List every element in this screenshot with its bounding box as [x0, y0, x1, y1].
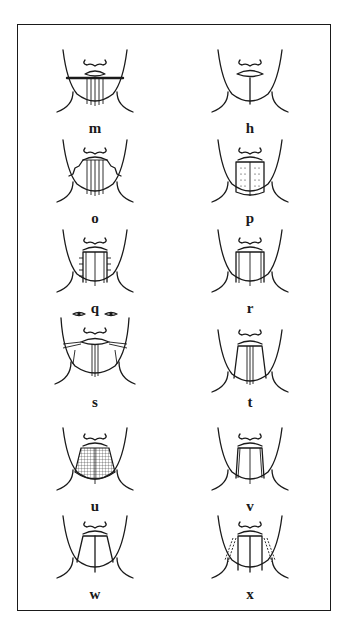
chin-panel-w: w [45, 508, 145, 603]
chin-tattoo-x-drawing [200, 508, 300, 588]
panel-label: s [45, 394, 145, 411]
chin-tattoo-m-drawing [45, 42, 145, 122]
chin-tattoo-p-drawing [200, 132, 300, 212]
chin-panel-x: x [200, 508, 300, 603]
chin-tattoo-o-drawing [45, 132, 145, 212]
panel-label: q [45, 300, 145, 317]
chin-panel-u: u [45, 420, 145, 515]
chin-panel-q: q [45, 222, 145, 317]
chin-panel-v: v [200, 420, 300, 515]
chin-tattoo-u-drawing [45, 420, 145, 500]
panel-label: w [45, 586, 145, 603]
chin-panel-t: t [200, 322, 300, 417]
chin-tattoo-t-drawing [200, 322, 300, 402]
chin-tattoo-v-drawing [200, 420, 300, 500]
chin-panel-m: m [45, 42, 145, 137]
panel-label: x [200, 586, 300, 603]
chin-panel-o: o [45, 132, 145, 227]
chin-tattoo-w-drawing [45, 508, 145, 588]
panel-label: r [200, 300, 300, 317]
panel-label: t [200, 394, 300, 411]
chin-panel-p: p [200, 132, 300, 227]
chin-panel-r: r [200, 222, 300, 317]
chin-tattoo-r-drawing [200, 222, 300, 302]
chin-tattoo-h-drawing [200, 42, 300, 122]
chin-tattoo-s-drawing [45, 322, 145, 402]
chin-panel-s: s [45, 322, 145, 417]
chin-panel-h: h [200, 42, 300, 137]
chin-tattoo-q-drawing [45, 222, 145, 302]
